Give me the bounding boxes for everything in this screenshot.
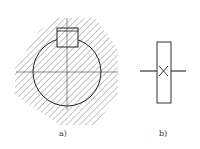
symbol-rectangle [157,42,171,103]
diagram-canvas [0,0,200,149]
figure-b-label: b) [159,129,167,138]
figure-a-label: a) [59,129,67,138]
figure-a [10,15,122,130]
figure-b [140,42,186,103]
